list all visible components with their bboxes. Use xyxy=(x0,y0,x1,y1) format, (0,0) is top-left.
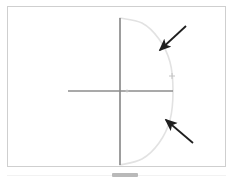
horizontal-scrollbar-thumb[interactable] xyxy=(112,173,138,177)
page-root xyxy=(0,0,232,181)
curve-markers-group xyxy=(126,73,175,92)
upper-arrow xyxy=(160,26,186,50)
plot-canvas xyxy=(0,0,232,181)
annotation-arrows-group xyxy=(160,26,193,143)
lower-arrow xyxy=(166,120,193,143)
curve-point-marker xyxy=(169,73,175,79)
axes-group xyxy=(68,18,173,165)
